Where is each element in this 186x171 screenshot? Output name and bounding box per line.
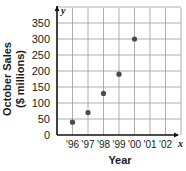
y-tick-label: 300	[32, 33, 50, 45]
x-tick-label: '02	[159, 139, 172, 150]
y-tick-label: 100	[32, 97, 50, 109]
data-point	[70, 120, 75, 125]
y-tick-label: 0	[44, 129, 50, 141]
data-point	[132, 36, 137, 41]
y-tick-label: 150	[32, 81, 50, 93]
y-axis-label-line1: October Sales	[1, 19, 14, 139]
x-tick-label: '96	[66, 139, 79, 150]
y-axis-variable: y	[60, 5, 66, 16]
x-tick-label: '99	[112, 139, 125, 150]
x-axis-label: Year	[60, 154, 180, 166]
x-axis-variable: x	[177, 138, 183, 149]
x-axis-arrow-icon	[174, 133, 179, 138]
y-tick-label: 200	[32, 65, 50, 77]
y-tick-label: 50	[38, 113, 50, 125]
y-tick-label: 250	[32, 49, 50, 61]
y-tick-label: 350	[32, 17, 50, 29]
x-tick-label: '98	[97, 139, 110, 150]
data-point	[85, 110, 90, 115]
data-point	[116, 72, 121, 77]
y-axis-label-line2: ($ millions)	[14, 19, 27, 139]
data-point	[101, 91, 106, 96]
y-axis-label: October Sales ($ millions)	[1, 19, 31, 139]
x-tick-label: '00	[128, 139, 141, 150]
x-tick-label: '01	[143, 139, 156, 150]
x-tick-label: '97	[81, 139, 94, 150]
